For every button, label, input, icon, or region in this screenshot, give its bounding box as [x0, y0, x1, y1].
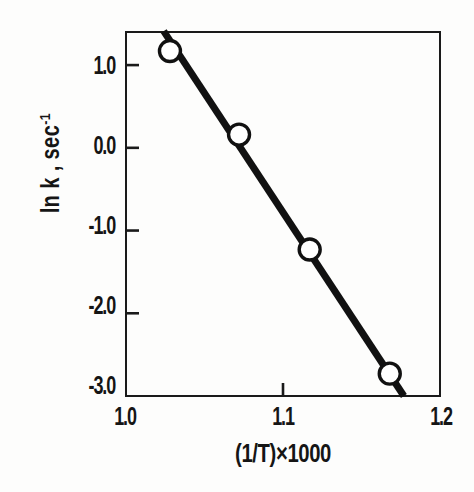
y-tick-label-4: -2.0 [67, 293, 115, 318]
y-axis-title: ln k , sec-1 [37, 91, 63, 235]
arrhenius-plot-figure: 1.0 0.0 -1.0 -2.0 -3.0 1.0 1.1 1.2 ln k … [0, 0, 474, 492]
y-tick-label-2: 0.0 [72, 133, 115, 158]
y-tick-label-5: -3.0 [67, 373, 115, 398]
x-tick-label-1: 1.0 [103, 404, 146, 429]
x-tick-label-2: 1.1 [261, 404, 304, 429]
plot-frame [125, 31, 441, 397]
x-axis-title: (1/T)×1000 [160, 440, 406, 466]
x-tick-label-3: 1.2 [419, 404, 462, 429]
y-axis-title-exponent: -1 [36, 113, 53, 125]
y-tick-label-1: 1.0 [72, 53, 115, 78]
y-tick-label-3: -1.0 [67, 213, 115, 238]
y-axis-title-base: ln k , sec [36, 125, 64, 214]
